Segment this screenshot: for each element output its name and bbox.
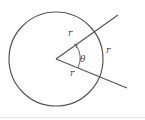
angle-label: θ: [80, 54, 86, 64]
radius-label-upper: r: [68, 28, 73, 38]
lower-ray: [56, 59, 127, 88]
radian-diagram: r θ r r: [0, 0, 145, 120]
divider: [0, 117, 145, 118]
arc-label: r: [106, 45, 111, 55]
radius-label-lower: r: [70, 68, 75, 78]
